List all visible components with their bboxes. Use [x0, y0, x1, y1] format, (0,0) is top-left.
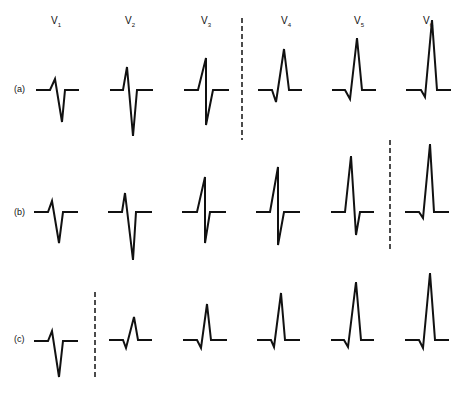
qrs-b-v5 — [331, 156, 374, 235]
qrs-c-v5 — [331, 282, 374, 347]
qrs-a-v4 — [258, 49, 302, 102]
qrs-c-v1 — [34, 331, 78, 377]
qrs-a-v5 — [332, 38, 376, 99]
qrs-c-v2 — [109, 317, 152, 348]
qrs-c-v3 — [183, 304, 227, 348]
ecg-waveforms — [0, 0, 471, 393]
qrs-c-v4 — [257, 293, 300, 347]
qrs-a-v2 — [110, 67, 153, 136]
qrs-b-v3 — [182, 177, 226, 243]
qrs-b-v4 — [256, 167, 300, 245]
qrs-a-v3 — [184, 58, 229, 125]
qrs-b-v6 — [405, 144, 449, 218]
qrs-b-v2 — [108, 193, 152, 260]
qrs-a-v6 — [406, 20, 451, 97]
qrs-c-v6 — [405, 273, 449, 348]
qrs-a-v1 — [36, 79, 79, 122]
qrs-b-v1 — [34, 201, 78, 243]
